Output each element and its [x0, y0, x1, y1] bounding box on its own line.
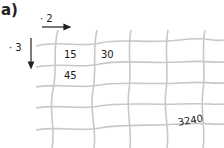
grid-cell: 45 — [64, 70, 77, 81]
grid-cell: 15 — [64, 49, 77, 60]
grid-cell: 30 — [101, 49, 114, 60]
right-arrow-icon — [42, 25, 70, 30]
down-arrow-icon — [29, 38, 34, 68]
grid-vertical-lines — [51, 30, 205, 148]
